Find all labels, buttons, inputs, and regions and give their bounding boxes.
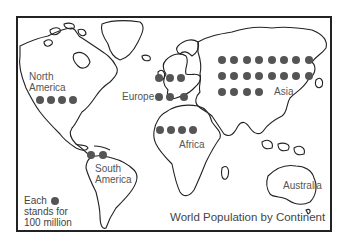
label-line: North xyxy=(29,71,66,82)
population-dot xyxy=(47,96,55,104)
population-dot xyxy=(99,151,107,159)
label-line: America xyxy=(29,82,66,93)
population-dot xyxy=(189,126,197,134)
population-dot xyxy=(167,126,175,134)
population-dot xyxy=(166,74,174,82)
continent-label-south-america: South America xyxy=(95,163,132,185)
continent-label-europe: Europe xyxy=(122,91,154,102)
population-dot xyxy=(268,56,276,64)
dot-icon xyxy=(51,197,59,205)
population-dot xyxy=(69,96,77,104)
population-dot xyxy=(155,74,163,82)
map-legend: Each stands for 100 million xyxy=(24,195,72,228)
continent-label-africa: Africa xyxy=(179,139,205,150)
population-dot xyxy=(178,126,186,134)
label-line: South xyxy=(95,163,132,174)
population-dot xyxy=(255,56,263,64)
legend-text: Each xyxy=(24,195,47,206)
legend-line-3: 100 million xyxy=(24,217,72,228)
population-dot xyxy=(305,72,313,80)
population-dot xyxy=(243,88,251,96)
map-title: World Population by Continent xyxy=(170,211,325,223)
population-dot xyxy=(305,56,313,64)
greenland-outline xyxy=(101,21,143,60)
population-dot xyxy=(230,56,238,64)
population-dot xyxy=(155,93,163,101)
population-dot xyxy=(180,93,188,101)
legend-line-2: stands for xyxy=(24,206,72,217)
population-dot xyxy=(166,93,174,101)
population-dot xyxy=(255,72,263,80)
continent-label-australia: Australia xyxy=(283,180,322,191)
population-dot xyxy=(58,96,66,104)
population-dot xyxy=(243,56,251,64)
legend-line-1: Each xyxy=(24,195,72,206)
population-dot xyxy=(255,88,263,96)
population-dot xyxy=(218,72,226,80)
population-dot xyxy=(292,72,300,80)
africa-outline xyxy=(154,105,221,195)
continent-label-asia: Asia xyxy=(274,86,293,97)
population-dot xyxy=(87,151,95,159)
population-dot xyxy=(230,72,238,80)
label-line: America xyxy=(95,174,132,185)
population-dot xyxy=(268,72,276,80)
population-dot xyxy=(218,56,226,64)
population-dot xyxy=(156,126,164,134)
population-dot xyxy=(218,88,226,96)
population-dot xyxy=(280,56,288,64)
population-dot xyxy=(280,72,288,80)
population-dot xyxy=(230,88,238,96)
population-dot xyxy=(36,96,44,104)
continent-label-north-america: North America xyxy=(29,71,66,93)
population-dot xyxy=(177,74,185,82)
population-dot xyxy=(243,72,251,80)
population-dot xyxy=(292,56,300,64)
asia-outline xyxy=(196,27,327,135)
